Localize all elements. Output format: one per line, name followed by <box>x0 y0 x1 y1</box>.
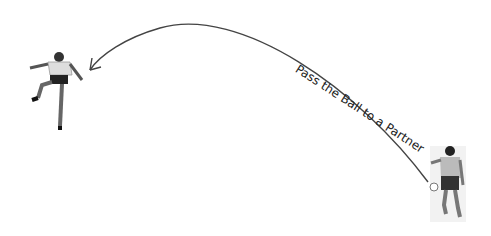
pass-arc-line <box>90 24 428 182</box>
receiving-player-figure <box>30 52 82 130</box>
diagram-canvas: Pass the Ball to a Partner <box>0 0 491 236</box>
diagram-svg: Pass the Ball to a Partner <box>0 0 491 236</box>
passing-player-figure <box>430 146 466 222</box>
pass-label: Pass the Ball to a Partner <box>293 62 427 156</box>
ball-icon <box>430 183 438 191</box>
